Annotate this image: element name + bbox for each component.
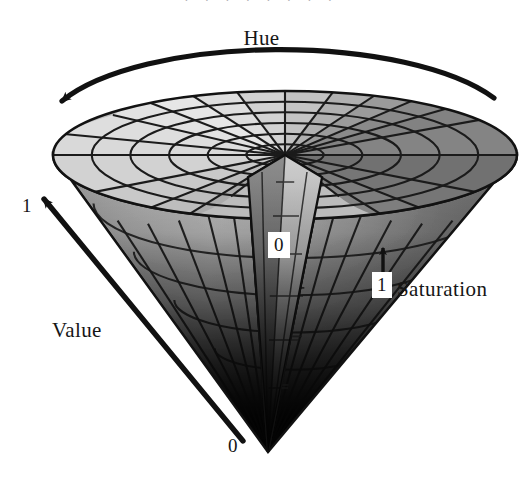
hsv-cone-illustration (0, 0, 523, 480)
saturation-tick-max: 1 (372, 272, 392, 298)
saturation-tick-min: 0 (268, 232, 290, 258)
value-axis-label: Value (52, 318, 102, 343)
scan-top-text-remnant: . . . . . . . . (0, 0, 523, 3)
value-tick-max: 1 (22, 196, 32, 215)
value-tick-min: 0 (228, 436, 238, 455)
hsv-cone-figure: . . . . . . . . (0, 0, 523, 480)
hue-axis-label: Hue (0, 26, 523, 51)
saturation-axis-label: Saturation (397, 277, 487, 302)
